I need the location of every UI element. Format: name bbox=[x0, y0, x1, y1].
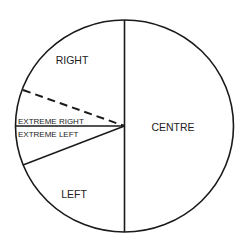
label-left: LEFT bbox=[61, 188, 87, 200]
label-centre: CENTRE bbox=[151, 121, 194, 133]
pie-chart: RIGHT CENTRE EXTREME RIGHT EXTREME LEFT … bbox=[0, 0, 247, 245]
label-right: RIGHT bbox=[56, 54, 89, 66]
label-extreme-left: EXTREME LEFT bbox=[18, 130, 79, 139]
label-extreme-right: EXTREME RIGHT bbox=[18, 117, 84, 126]
